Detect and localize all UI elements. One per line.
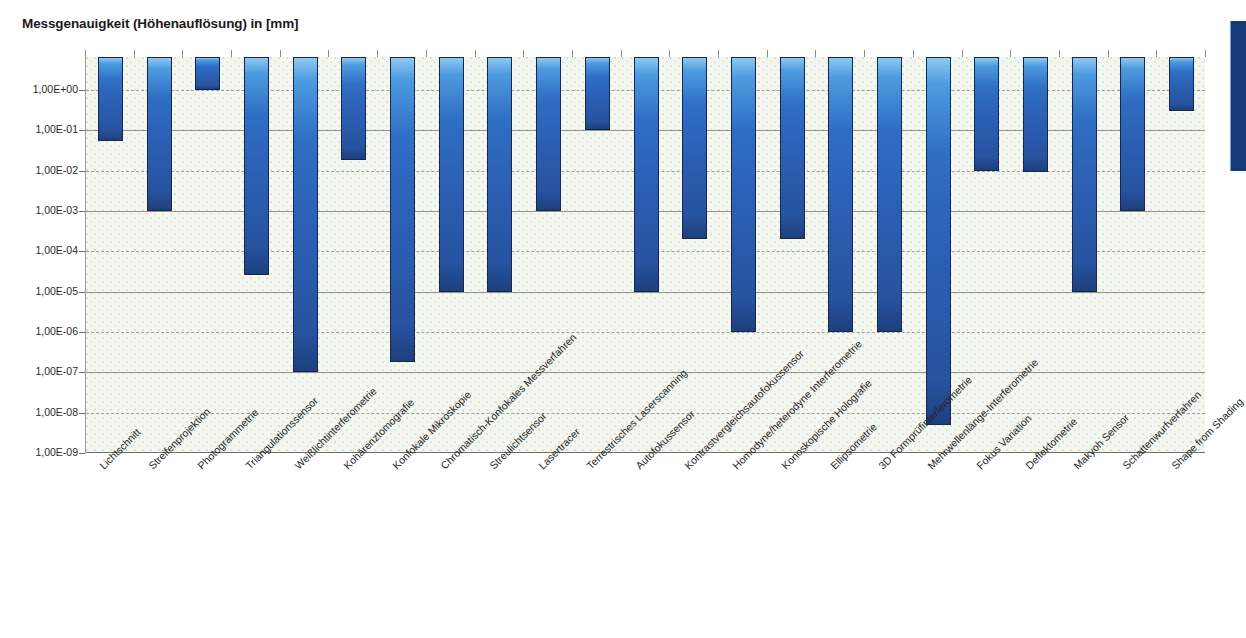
bar [634, 57, 659, 292]
y-axis-tick-label: 1,00E-06 [8, 325, 78, 337]
y-axis-tick-label: 1,00E-02 [8, 164, 78, 176]
bar [877, 57, 902, 332]
bar [1023, 57, 1048, 172]
bar [1072, 57, 1097, 292]
top-tick-mark [767, 50, 768, 57]
top-tick-mark [1108, 50, 1109, 57]
bar [244, 57, 269, 275]
top-tick-mark [1205, 50, 1206, 57]
bar [390, 57, 415, 362]
bar [780, 57, 805, 239]
bar [731, 57, 756, 332]
top-tick-mark [1156, 50, 1157, 57]
top-tick-mark [913, 50, 914, 57]
bar [293, 57, 318, 372]
edge-marker-block [1230, 21, 1246, 171]
y-axis-tick-label: 1,00E-03 [8, 204, 78, 216]
top-tick-mark [377, 50, 378, 57]
top-tick-mark [1010, 50, 1011, 57]
bar [98, 57, 123, 141]
bar [195, 57, 220, 90]
gridline [86, 332, 1205, 333]
bar [585, 57, 610, 130]
bar [1120, 57, 1145, 211]
x-axis-labels: LichtschnittStreifenprojektionPhotogramm… [0, 453, 1245, 638]
top-tick-mark [718, 50, 719, 57]
top-tick-mark [572, 50, 573, 57]
top-tick-mark [328, 50, 329, 57]
top-tick-mark [426, 50, 427, 57]
y-axis-tick-label: 1,00E-04 [8, 244, 78, 256]
bar [682, 57, 707, 239]
bar [341, 57, 366, 160]
top-tick-mark [621, 50, 622, 57]
bar [828, 57, 853, 332]
gridline [86, 372, 1205, 373]
y-axis-tick-label: 1,00E+00 [8, 83, 78, 95]
y-axis-tick-label: 1,00E-08 [8, 406, 78, 418]
bar [487, 57, 512, 292]
top-tick-mark [280, 50, 281, 57]
bar [926, 57, 951, 425]
bar [536, 57, 561, 211]
top-tick-mark [475, 50, 476, 57]
top-tick-mark [134, 50, 135, 57]
chart-title: Messgenauigkeit (Höhenauflösung) in [mm] [22, 16, 299, 31]
bar [974, 57, 999, 171]
gridline [86, 292, 1205, 293]
y-axis-tick-label: 1,00E-01 [8, 123, 78, 135]
top-tick-mark [231, 50, 232, 57]
top-tick-mark [815, 50, 816, 57]
bar [147, 57, 172, 211]
top-tick-mark [523, 50, 524, 57]
top-tick-mark [962, 50, 963, 57]
top-tick-mark [85, 50, 86, 57]
bar [439, 57, 464, 292]
top-tick-mark [1059, 50, 1060, 57]
y-axis-tick-label: 1,00E-05 [8, 285, 78, 297]
plot-area [85, 57, 1205, 453]
bar [1169, 57, 1194, 111]
y-axis-tick-label: 1,00E-07 [8, 365, 78, 377]
top-tick-mark [864, 50, 865, 57]
top-tick-mark [669, 50, 670, 57]
top-tick-mark [182, 50, 183, 57]
